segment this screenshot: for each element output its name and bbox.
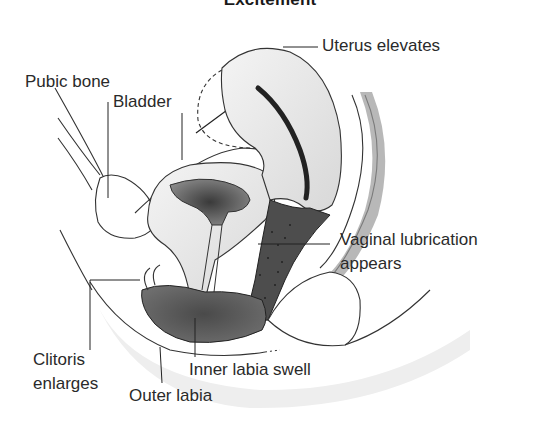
label-pubic-bone: Pubic bone [25,72,110,92]
outer-labia-dash [265,350,280,352]
inner-labia-region [142,285,266,342]
label-clitoris-2: enlarges [33,374,98,394]
label-bladder: Bladder [113,92,172,112]
label-inner-labia: Inner labia swell [189,360,311,380]
label-vaginal-lubrication-1: Vaginal lubrication [340,230,478,250]
anatomy-diagram: Excitement [0,0,540,427]
label-uterus-elevates: Uterus elevates [322,36,440,56]
label-clitoris-1: Clitoris [33,350,85,370]
pubic-line-4 [60,230,92,290]
label-vaginal-lubrication-2: appears [340,254,401,274]
pubic-bone-shape [95,175,155,238]
label-outer-labia: Outer labia [129,386,212,406]
